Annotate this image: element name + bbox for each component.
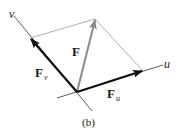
fu-label-subscript: u — [116, 94, 120, 103]
construction-line-right — [95, 19, 143, 71]
force-diagram: v u F Fv Fu (b) — [0, 0, 179, 139]
fv-label-subscript: v — [44, 73, 48, 82]
fu-label-base: F — [107, 86, 115, 101]
fv-label-base: F — [35, 65, 43, 80]
resultant-label: F — [72, 45, 80, 58]
fu-label: Fu — [107, 87, 120, 100]
fv-label: Fv — [35, 66, 48, 79]
u-axis-label: u — [164, 58, 170, 70]
figure-caption: (b) — [82, 117, 95, 128]
construction-line-top — [30, 19, 95, 38]
v-axis-label: v — [9, 8, 14, 20]
